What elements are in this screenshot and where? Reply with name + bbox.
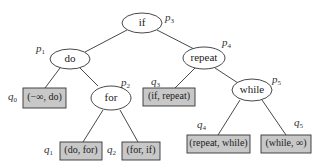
node-repeat-label: repeat [191,51,218,63]
node-do: do [50,49,90,69]
leaf-q5: (while, ∞) [261,135,311,153]
bst-diagram: if do for repeat while (−∞, do) (do, for… [0,0,321,165]
label-q2: q2 [107,143,117,157]
node-do-label: do [65,52,77,64]
leaf-q4: (repeat, while) [187,135,250,153]
edge-repeat-q3 [175,68,195,88]
label-q0: q0 [8,90,18,104]
label-p3: p3 [164,11,175,25]
leaf-q3-label: (if, repeat) [148,90,190,102]
leaf-q0: (−∞, do) [23,88,66,108]
node-repeat: repeat [183,47,225,69]
edge-if-do [85,30,127,52]
node-for-label: for [105,91,118,103]
edge-repeat-while [215,68,238,83]
edge-do-q0 [45,68,60,88]
label-p2: p2 [120,76,131,90]
leaf-q1: (do, for) [60,142,102,160]
leaf-q2-label: (for, if) [126,144,155,156]
label-p4: p4 [221,36,232,50]
node-while: while [232,79,272,101]
leaf-q2: (for, if) [122,142,160,160]
leaf-q0-label: (−∞, do) [27,91,61,103]
label-p1: p1 [35,42,46,56]
leaf-q1-label: (do, for) [64,144,97,156]
node-while-label: while [240,83,265,95]
label-q1: q1 [44,143,54,157]
node-for: for [91,86,131,110]
edge-while-q5 [262,100,286,135]
label-p5: p5 [271,73,282,87]
label-q4: q4 [197,118,207,132]
edge-while-q4 [218,100,240,135]
leaf-q3: (if, repeat) [143,88,195,106]
edge-do-for [80,68,98,86]
edge-if-repeat [157,30,196,50]
label-q3: q3 [151,75,161,89]
label-q5: q5 [294,116,304,130]
node-if-label: if [139,16,146,28]
node-if: if [122,13,162,33]
edge-for-q1 [83,110,103,142]
edge-for-q2 [120,110,138,142]
leaf-q5-label: (while, ∞) [265,137,306,149]
leaf-q4-label: (repeat, while) [189,137,247,149]
